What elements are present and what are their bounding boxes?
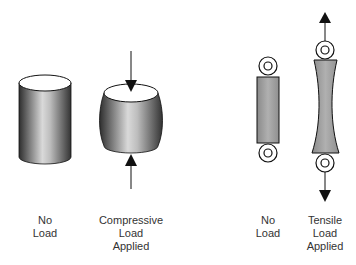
- label-line: No: [5, 214, 85, 227]
- label-compressive-load-applied: Compressive Load Applied: [91, 214, 171, 253]
- label-line: Compressive: [91, 214, 171, 227]
- label-tensile-load-applied: Tensile Load Applied: [285, 214, 356, 253]
- label-line: Load: [285, 227, 356, 240]
- label-line: Load: [5, 227, 85, 240]
- tensile-specimen-loaded: [312, 12, 339, 202]
- compression-arrow-bottom-icon: [125, 154, 137, 189]
- label-line: Applied: [91, 240, 171, 253]
- label-line: Applied: [285, 240, 356, 253]
- label-line: Tensile: [285, 214, 356, 227]
- compressed-cylinder: [100, 84, 163, 153]
- label-compression-no-load: No Load: [5, 214, 85, 240]
- label-line: Load: [91, 227, 171, 240]
- tensile-specimen-unloaded: [257, 57, 279, 162]
- uncompressed-cylinder: [19, 75, 71, 164]
